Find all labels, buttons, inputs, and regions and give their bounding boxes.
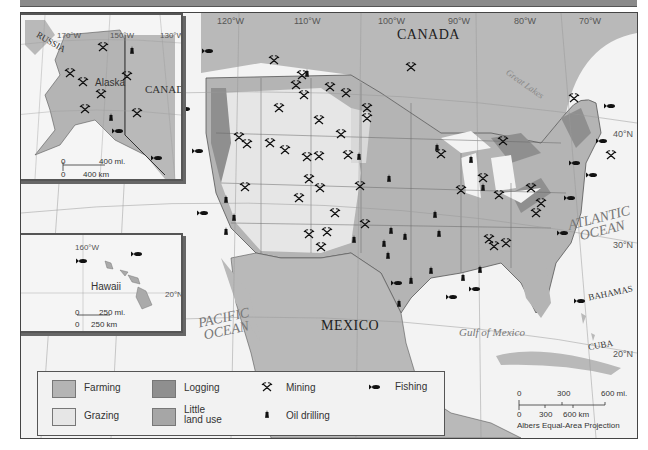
latitude-label: 40°N xyxy=(613,129,633,139)
label-canada: CANADA xyxy=(397,27,460,43)
scale-bar: 0 300 600 mi. 0 300 600 km Albers Equal-… xyxy=(517,389,637,437)
alaska-inset: RUSSIA Alaska CANADA 170°W 150°W 130°W 0… xyxy=(20,13,183,181)
scale-km-mid: 300 xyxy=(539,410,552,419)
legend-label-mining: Mining xyxy=(286,383,315,393)
longitude-label: 160°W xyxy=(75,243,99,252)
longitude-label: 170°W xyxy=(57,31,81,40)
oil-derrick-icon xyxy=(260,408,274,420)
longitude-label: 70°W xyxy=(579,16,601,26)
label-mexico: MEXICO xyxy=(321,318,379,334)
latitude-label: 30°N xyxy=(613,240,633,250)
projection-label: Albers Equal-Area Projection xyxy=(517,421,620,430)
scale-km: 250 km xyxy=(91,320,117,329)
longitude-label: 130°W xyxy=(160,31,183,40)
label-alaska-canada: CANADA xyxy=(145,83,183,95)
legend: Farming Grazing Logging Little land use … xyxy=(37,371,445,436)
mining-icon xyxy=(260,381,274,393)
scale-mi-end: 600 mi. xyxy=(601,389,627,398)
latitude-label: 20°N xyxy=(613,349,633,359)
scale-km-zero: 0 xyxy=(61,170,65,179)
longitude-label: 120°W xyxy=(217,16,244,26)
longitude-label: 100°W xyxy=(378,16,405,26)
swatch-grazing xyxy=(52,408,76,426)
legend-label-grazing: Grazing xyxy=(84,411,119,421)
scale-mi: 250 mi. xyxy=(99,308,125,317)
fish-icon xyxy=(368,381,382,393)
scale-km: 400 km xyxy=(83,170,109,179)
label-gulf-of-mexico: Gulf of Mexico xyxy=(459,326,525,338)
swatch-farming xyxy=(52,380,76,398)
scale-mi-zero: 0 xyxy=(75,308,79,317)
legend-label-logging: Logging xyxy=(184,383,220,393)
legend-label-little-land-use: Little land use xyxy=(184,405,222,425)
header-bar xyxy=(20,0,637,7)
map-frame: 140°W 130°W 120°W 110°W 100°W 90°W 80°W … xyxy=(20,12,638,439)
scale-km-zero: 0 xyxy=(75,320,79,329)
legend-label-oil-drilling: Oil drilling xyxy=(286,411,330,421)
scale-mi-zero: 0 xyxy=(517,389,521,398)
longitude-label: 90°W xyxy=(448,16,470,26)
scale-mi-mid: 300 xyxy=(557,389,570,398)
legend-label-farming: Farming xyxy=(84,383,121,393)
longitude-label: 110°W xyxy=(294,16,320,26)
longitude-label: 150°W xyxy=(110,31,134,40)
longitude-label: 80°W xyxy=(514,16,536,26)
scale-mi-zero: 0 xyxy=(61,157,65,166)
hawaii-inset: 160°W 20°N Hawaii 0 250 mi. 0 250 km xyxy=(20,233,183,333)
scale-km-zero: 0 xyxy=(517,410,521,419)
legend-label-fishing: Fishing xyxy=(395,382,427,392)
swatch-logging xyxy=(152,380,176,398)
scale-km-end: 600 km xyxy=(563,410,589,419)
latitude-label: 20°N xyxy=(165,290,183,299)
swatch-little-land-use xyxy=(152,408,176,426)
label-alaska: Alaska xyxy=(95,77,125,88)
scale-mi: 400 mi. xyxy=(99,157,125,166)
label-hawaii: Hawaii xyxy=(91,281,121,292)
